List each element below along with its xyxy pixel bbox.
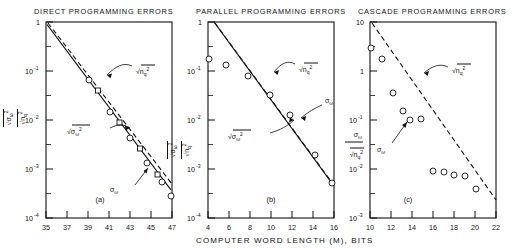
panel-b-markers <box>206 56 335 186</box>
ytick-10: 10 <box>356 18 364 27</box>
panel-c: CASCADE PROGRAMMING ERRORS 10 1 10 -1 10… <box>345 7 506 232</box>
panel-a: DIRECT PROGRAMMING ERRORS 1 10 -1 10 -2 … <box>3 7 176 232</box>
figure-svg: DIRECT PROGRAMMING ERRORS 1 10 -1 10 -2 … <box>0 0 529 249</box>
ytick-1: 1 <box>198 18 202 27</box>
panel-b-annotation-sigma: σω <box>301 97 333 121</box>
panel-a-ytick-labels: 1 10 -1 10 -2 10 -3 10 -4 <box>25 18 40 223</box>
panel-b-letter: (b) <box>266 195 275 204</box>
ytick-10-2-exp: -2 <box>34 114 39 120</box>
ytick-1: 1 <box>360 67 364 76</box>
ytick-10-4: 10 <box>25 214 33 223</box>
panel-a-frame <box>46 22 172 218</box>
ytick-10-3: 10 <box>349 214 357 223</box>
ytick-10-3: 10 <box>187 165 195 174</box>
panel-a-letter: (a) <box>95 195 104 204</box>
xtick-10: 10 <box>366 223 374 232</box>
panel-b-yticks <box>208 22 215 218</box>
panel-c-annotation-sigma: σω <box>377 122 407 155</box>
xtick-37: 37 <box>63 223 71 232</box>
ytick-10-3-exp: -3 <box>34 163 39 169</box>
ytick-1: 1 <box>36 18 40 27</box>
xtick-12: 12 <box>288 223 296 232</box>
sigma-sq-annotation-label: √σω2 <box>228 131 243 142</box>
xtick-12: 12 <box>387 223 395 232</box>
ytick-10-1-exp: -1 <box>358 114 363 120</box>
ylabel-top: σω <box>354 131 362 140</box>
xtick-35: 35 <box>42 223 50 232</box>
panel-a-yticks <box>46 22 53 218</box>
ylabel-bottom: √nq2 <box>350 149 364 160</box>
panel-a-annotation-sigma: σω <box>110 168 148 195</box>
panel-a-line-sigma <box>47 25 171 191</box>
xtick-10: 10 <box>267 223 275 232</box>
figure-root: DIRECT PROGRAMMING ERRORS 1 10 -1 10 -2 … <box>0 0 529 249</box>
ylabel-bottom: √nq2 <box>181 143 192 157</box>
panel-a-title: DIRECT PROGRAMMING ERRORS <box>34 7 173 16</box>
xtick-39: 39 <box>84 223 92 232</box>
ytick-10-3: 10 <box>25 165 33 174</box>
xtick-47: 47 <box>168 223 176 232</box>
xtick-16: 16 <box>330 223 338 232</box>
ytick-10-2: 10 <box>349 165 357 174</box>
xtick-6: 6 <box>227 223 231 232</box>
panel-b-xticks: 4 6 8 10 12 14 16 <box>206 211 338 232</box>
ytick-10-2-exp: -2 <box>196 114 201 120</box>
nq-annotation-label: √nq2 <box>299 64 313 75</box>
ytick-10-4: 10 <box>187 214 195 223</box>
ytick-10-1: 10 <box>349 116 357 125</box>
ytick-10-4-exp: -4 <box>34 212 39 218</box>
ytick-10-2: 10 <box>187 116 195 125</box>
panel-c-xticks: 10 12 14 16 18 20 22 <box>366 211 500 232</box>
panel-c-ytick-labels: 10 1 10 -1 10 -2 10 -3 <box>349 18 364 223</box>
xtick-16: 16 <box>429 223 437 232</box>
ytick-10-3-exp: -3 <box>358 212 363 218</box>
sigma-annotation-label: σω <box>110 186 118 195</box>
xtick-41: 41 <box>105 223 113 232</box>
panel-b-ytick-labels: 1 10 -1 10 -2 10 -3 10 -4 <box>187 18 202 223</box>
ytick-10-2-exp: -2 <box>358 163 363 169</box>
ytick-10-1: 10 <box>25 67 33 76</box>
panel-b-annotation-nq: √nq2 <box>274 62 318 75</box>
panel-a-xticks: 35 37 39 41 43 45 47 <box>42 211 176 232</box>
panel-c-ylabel: σω √nq2 <box>345 131 364 160</box>
xtick-20: 20 <box>471 223 479 232</box>
sigma-sq-annotation-label: √σω2 <box>67 126 82 137</box>
xtick-22: 22 <box>492 223 500 232</box>
ytick-10-1-exp: -1 <box>196 65 201 71</box>
panel-c-title: CASCADE PROGRAMMING ERRORS <box>358 7 506 16</box>
xtick-45: 45 <box>147 223 155 232</box>
panel-b: PARALLEL PROGRAMMING ERRORS 1 10 -1 10 -… <box>167 7 346 232</box>
xtick-14: 14 <box>309 223 317 232</box>
panel-c-annotation-nq: √nq2 <box>424 64 471 76</box>
nq-annotation-label: √nq2 <box>136 66 150 77</box>
ytick-10-1-exp: -1 <box>34 65 39 71</box>
panel-c-letter: (c) <box>404 195 413 204</box>
sigma-annotation-label: σω <box>325 97 333 106</box>
ytick-10-1: 10 <box>187 67 195 76</box>
xaxis-title: COMPUTER WORD LENGTH (M), BITS <box>196 236 373 245</box>
panel-b-title: PARALLEL PROGRAMMING ERRORS <box>196 7 346 16</box>
panel-a-annotation-nq: √nq2 <box>107 64 155 78</box>
xtick-18: 18 <box>450 223 458 232</box>
ylabel-top: √σω2 <box>167 142 178 157</box>
panel-a-line-nq <box>48 23 172 184</box>
panel-b-frame <box>208 22 334 218</box>
xtick-4: 4 <box>206 223 210 232</box>
xtick-43: 43 <box>126 223 134 232</box>
ytick-10-4-exp: -4 <box>196 212 201 218</box>
panel-a-ylabel: √σω2 √nq2 <box>3 109 28 127</box>
sigma-annotation-label: σω <box>377 146 385 155</box>
panel-a-markers <box>86 77 174 199</box>
xtick-8: 8 <box>248 223 252 232</box>
ylabel-top: √σω2 <box>3 110 14 125</box>
xtick-14: 14 <box>408 223 416 232</box>
ytick-10-3-exp: -3 <box>196 163 201 169</box>
panel-b-ylabel: √σω2 √nq2 <box>167 141 192 159</box>
panel-b-annotation-sigma-sq: √σω2 <box>228 118 294 143</box>
nq-annotation-label: √nq2 <box>452 65 466 76</box>
panel-a-annotation-sigma-sq: √σω2 <box>67 125 130 137</box>
